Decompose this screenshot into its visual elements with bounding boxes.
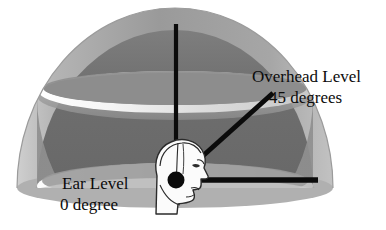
label-overhead-level: Overhead Level: [252, 67, 361, 87]
hemisphere-elevation-figure: [0, 0, 386, 230]
ear-origin-dot: [168, 172, 185, 189]
label-ear-level: Ear Level: [62, 174, 129, 194]
label-45-degrees: 45 degrees: [269, 88, 342, 108]
diagram-canvas: Overhead Level 45 degrees Ear Level 0 de…: [0, 0, 386, 230]
label-0-degree: 0 degree: [60, 195, 118, 215]
